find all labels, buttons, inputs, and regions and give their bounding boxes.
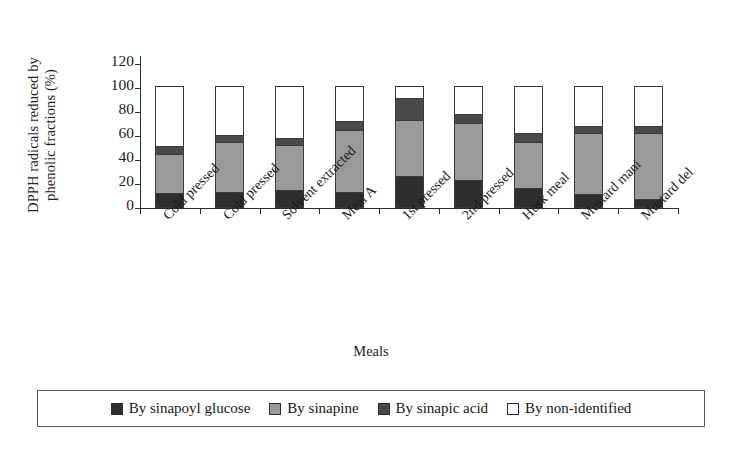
bar-segment-1 [396,121,423,177]
bar-segment-2 [515,134,542,144]
chart-legend: By sinapoyl glucoseBy sinapineBy sinapic… [37,390,705,427]
y-axis-line [140,56,141,208]
legend-label: By sinapoyl glucose [129,400,251,417]
bar-7 [514,86,543,208]
bar-segment-3 [216,87,243,136]
legend-label: By sinapine [287,400,358,417]
bar-segment-3 [336,87,363,122]
bar-9 [634,86,663,208]
legend-item-4: By non-identified [507,400,631,417]
bar-segment-2 [635,127,662,134]
legend-label: By non-identified [525,400,631,417]
y-axis-tick-label: 60 [96,128,134,138]
bar-segment-3 [396,87,423,99]
bar-segment-2 [575,127,602,134]
legend-swatch-icon [378,403,390,415]
y-axis-title: DPPH radicals reduced by phenolic fracti… [25,35,59,235]
bar-segment-2 [276,139,303,146]
bar-segment-1 [216,143,243,192]
y-axis-tick-label: 100 [96,80,134,90]
y-axis-tick [135,88,141,89]
bar-segment-3 [156,87,183,147]
bar-segment-2 [455,115,482,125]
legend-swatch-icon [269,403,281,415]
y-axis-tick [135,64,141,65]
legend-swatch-icon [111,403,123,415]
y-axis-tick-label: 20 [96,176,134,186]
bar-segment-1 [156,155,183,193]
bar-segment-3 [515,87,542,134]
stacked-bar-chart: DPPH radicals reduced by phenolic fracti… [0,0,742,451]
x-axis-title: Meals [0,343,742,360]
y-axis-tick [135,112,141,113]
bar-2 [215,86,244,208]
y-axis-tick-label: 120 [96,56,134,66]
legend-item-3: By sinapic acid [378,400,488,417]
bar-segment-3 [635,87,662,127]
bar-segment-3 [575,87,602,127]
bar-segment-3 [276,87,303,139]
bar-segment-1 [515,143,542,189]
bar-segment-2 [336,122,363,132]
y-axis-tick-label: 80 [96,104,134,114]
legend-item-2: By sinapine [269,400,358,417]
y-axis-tick [135,184,141,185]
bar-5 [395,86,424,208]
y-axis-tick-label: 0 [96,200,134,210]
legend-label: By sinapic acid [396,400,488,417]
legend-swatch-icon [507,403,519,415]
bar-segment-1 [575,134,602,195]
plot-area: 020406080100120 [140,88,678,208]
y-axis-tick [135,160,141,161]
x-axis-category-labels: Cold pressedCold pressedSolvent extracte… [140,212,700,332]
bar-segment-2 [396,99,423,121]
bar-segment-3 [455,87,482,115]
bar-segment-2 [156,147,183,155]
y-axis-tick-label: 40 [96,152,134,162]
legend-item-1: By sinapoyl glucose [111,400,251,417]
bar-segment-2 [216,136,243,143]
bar-1 [155,86,184,208]
bar-6 [454,86,483,208]
y-axis-tick [135,136,141,137]
bar-segment-1 [455,124,482,180]
